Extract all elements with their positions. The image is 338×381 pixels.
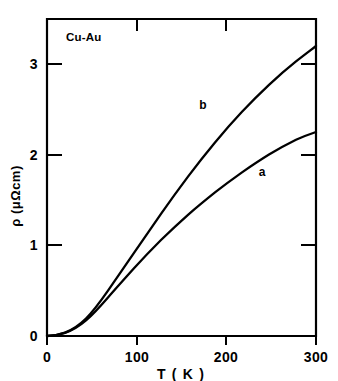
y-axis-ticks	[47, 64, 316, 245]
x-axis-ticks	[47, 19, 316, 345]
plot-frame	[47, 19, 316, 336]
y-tick-label-1: 1	[30, 237, 38, 253]
figure-container: 0 100 200 300 0 1 2 3 T ( K ) ρ (μΩcm) C…	[0, 0, 338, 381]
y-tick-label-0: 0	[30, 328, 38, 344]
curve-label-a: a	[259, 165, 266, 179]
curve-b	[47, 46, 316, 336]
x-tick-label-0: 0	[43, 349, 51, 365]
axes-box	[47, 19, 316, 336]
curve-label-b: b	[199, 98, 206, 112]
data-curves	[47, 46, 316, 336]
y-tick-label-2: 2	[30, 147, 38, 163]
x-tick-labels: 0 100 200 300	[43, 349, 328, 365]
sample-label: Cu-Au	[66, 31, 102, 43]
y-tick-labels: 0 1 2 3	[30, 56, 38, 344]
x-tick-label-200: 200	[214, 349, 239, 365]
y-tick-label-3: 3	[30, 56, 38, 72]
x-tick-label-300: 300	[304, 349, 329, 365]
x-tick-label-100: 100	[125, 349, 150, 365]
x-axis-title: T ( K )	[157, 366, 205, 381]
y-axis-title: ρ (μΩcm)	[8, 165, 23, 226]
resistivity-vs-temperature-chart: 0 100 200 300 0 1 2 3 T ( K ) ρ (μΩcm) C…	[0, 0, 338, 381]
curve-a	[47, 132, 316, 336]
